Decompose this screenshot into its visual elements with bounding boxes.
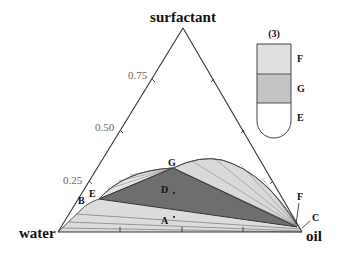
- point-label-e: E: [89, 188, 96, 199]
- point-label-d: D: [161, 184, 168, 195]
- tick-label-0.25: 0.25: [63, 174, 83, 186]
- tick-label-0.75: 0.75: [128, 69, 148, 81]
- point-label-g: G: [168, 157, 176, 168]
- point-label-b: B: [78, 195, 85, 206]
- point-label-a: A: [161, 215, 169, 226]
- ternary-diagram-figure: 0.25 0.50 0.75 surfactant water oil B E …: [0, 0, 340, 256]
- point-label-f: F: [297, 191, 303, 202]
- tube-label-e: E: [297, 112, 304, 123]
- vertex-label-water: water: [19, 225, 56, 241]
- tube-phase-g: [257, 74, 291, 103]
- point-d-marker: [173, 192, 175, 194]
- test-tube: [257, 44, 291, 138]
- vertex-label-surfactant: surfactant: [150, 9, 216, 25]
- tube-label-f: F: [297, 53, 303, 64]
- tube-title: (3): [268, 28, 280, 40]
- point-label-c: C: [312, 212, 319, 223]
- vertex-label-oil: oil: [306, 228, 322, 244]
- point-c-arrow: [302, 221, 310, 228]
- point-f-arrow: [296, 203, 299, 224]
- tick-label-0.50: 0.50: [95, 121, 115, 133]
- point-a-marker: [173, 216, 175, 218]
- tube-label-g: G: [297, 83, 305, 94]
- tube-phase-f: [257, 44, 291, 74]
